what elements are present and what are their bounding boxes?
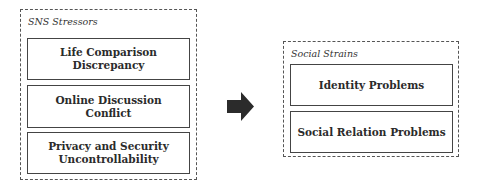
node-privacy-security-uncontrollability: Privacy and Security Uncontrollability (27, 132, 190, 174)
group-title: Social Strains (291, 48, 358, 59)
node-identity-problems: Identity Problems (290, 64, 453, 106)
social-strains-group: Social Strains Identity Problems Social … (283, 41, 459, 157)
node-online-discussion-conflict: Online Discussion Conflict (27, 85, 190, 128)
node-social-relation-problems: Social Relation Problems (290, 111, 453, 153)
group-title: SNS Stressors (28, 16, 98, 27)
sns-stressors-group: SNS Stressors Life Comparison Discrepanc… (20, 9, 197, 180)
arrow-right-icon (227, 92, 254, 121)
node-life-comparison-discrepancy: Life Comparison Discrepancy (27, 38, 190, 80)
